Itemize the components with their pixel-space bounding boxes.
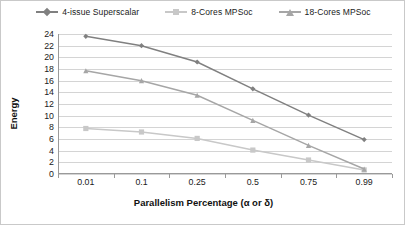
plot-area bbox=[58, 34, 392, 174]
y-tick-label: 16 bbox=[32, 76, 54, 86]
y-tick-label: 12 bbox=[32, 99, 54, 109]
legend-label-8-cores-mpsoc: 8-Cores MPSoc bbox=[191, 7, 252, 17]
legend-marker-glyph bbox=[43, 8, 51, 16]
y-axis-title-text: Energy bbox=[8, 97, 19, 129]
series-line bbox=[86, 36, 364, 139]
legend-marker-glyph bbox=[173, 9, 179, 15]
y-axis-title: Energy bbox=[5, 1, 21, 225]
data-point-marker bbox=[139, 43, 144, 48]
x-tick-label: 0.1 bbox=[135, 177, 147, 187]
legend-label-18-cores-mpsoc: 18-Cores MPSoc bbox=[305, 7, 371, 17]
x-tick-mark bbox=[392, 174, 393, 178]
square-marker-icon bbox=[165, 7, 187, 17]
data-point-marker bbox=[83, 34, 88, 39]
data-point-marker bbox=[195, 59, 200, 64]
series-line bbox=[86, 129, 364, 170]
y-tick-label: 14 bbox=[32, 87, 54, 97]
x-tick-label: 0.5 bbox=[247, 177, 259, 187]
y-tick-label: 20 bbox=[32, 52, 54, 62]
triangle-marker-icon bbox=[279, 7, 301, 17]
y-tick-label: 0 bbox=[32, 169, 54, 179]
data-point-marker bbox=[306, 112, 311, 117]
legend-item-8-cores-mpsoc[interactable]: 8-Cores MPSoc bbox=[165, 7, 252, 17]
data-point-marker bbox=[250, 147, 255, 152]
legend-item-18-cores-mpsoc[interactable]: 18-Cores MPSoc bbox=[279, 7, 371, 17]
x-tick-label: 0.01 bbox=[77, 177, 94, 187]
legend-marker-glyph bbox=[286, 9, 294, 16]
x-tick-label: 0.25 bbox=[189, 177, 206, 187]
x-tick-label: 0.75 bbox=[300, 177, 317, 187]
y-tick-label: 8 bbox=[32, 122, 54, 132]
y-axis-tick-labels: 242220181614121086420 bbox=[32, 34, 54, 174]
data-point-marker bbox=[306, 157, 311, 162]
chart-legend: 4-issue Superscalar 8-Cores MPSoc 18-Cor… bbox=[1, 4, 405, 20]
y-tick-label: 22 bbox=[32, 41, 54, 51]
series-plot bbox=[58, 34, 392, 174]
y-tick-label: 4 bbox=[32, 146, 54, 156]
legend-item-4-issue-superscalar[interactable]: 4-issue Superscalar bbox=[36, 7, 139, 17]
y-tick-label: 6 bbox=[32, 134, 54, 144]
y-tick-label: 10 bbox=[32, 111, 54, 121]
y-tick-label: 18 bbox=[32, 64, 54, 74]
energy-line-chart: 4-issue Superscalar 8-Cores MPSoc 18-Cor… bbox=[0, 0, 405, 225]
y-tick-label: 24 bbox=[32, 29, 54, 39]
data-point-marker bbox=[362, 137, 367, 142]
x-axis-title: Parallelism Percentage (α or δ) bbox=[1, 197, 405, 208]
legend-label-4-issue-superscalar: 4-issue Superscalar bbox=[62, 7, 139, 17]
data-point-marker bbox=[195, 136, 200, 141]
data-point-marker bbox=[250, 86, 255, 91]
data-point-marker bbox=[139, 129, 144, 134]
series-line bbox=[86, 71, 364, 169]
diamond-marker-icon bbox=[36, 7, 58, 17]
x-axis-tick-labels: 0.010.10.250.50.750.99 bbox=[58, 177, 392, 191]
x-tick-label: 0.99 bbox=[356, 177, 373, 187]
data-point-marker bbox=[83, 126, 88, 131]
y-tick-label: 2 bbox=[32, 157, 54, 167]
